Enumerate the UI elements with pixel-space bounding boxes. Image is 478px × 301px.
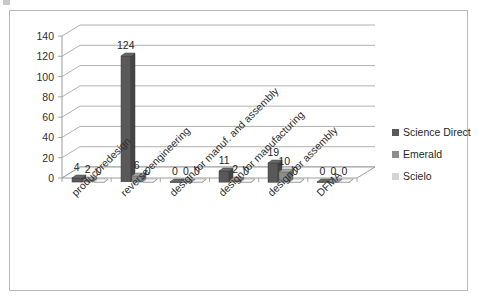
y-axis-tick-80: 80 [20, 92, 54, 102]
legend-item-2[interactable]: Scielo [392, 171, 468, 182]
data-label-1-0: 124 [115, 40, 137, 50]
legend-label: Science Direct [403, 127, 471, 138]
scan-artifact [3, 0, 10, 5]
y-axis-tick-100: 100 [20, 72, 54, 82]
y-axis-tick-20: 20 [20, 153, 54, 163]
legend-label: Scielo [403, 171, 432, 182]
chart-frame: 020406080100120140 420124600001120191000… [9, 10, 468, 291]
y-axis-tick-120: 120 [20, 51, 54, 61]
legend-swatch-icon [392, 173, 399, 180]
y-axis-tick-40: 40 [20, 132, 54, 142]
chart-legend: Science DirectEmeraldScielo [392, 127, 468, 193]
y-axis-tick-0: 0 [20, 173, 54, 183]
legend-swatch-icon [392, 129, 399, 136]
y-axis-tick-140: 140 [20, 31, 54, 41]
legend-item-1[interactable]: Emerald [392, 149, 468, 160]
legend-item-0[interactable]: Science Direct [392, 127, 468, 138]
y-axis-tick-60: 60 [20, 112, 54, 122]
legend-label: Emerald [403, 149, 442, 160]
legend-swatch-icon [392, 151, 399, 158]
